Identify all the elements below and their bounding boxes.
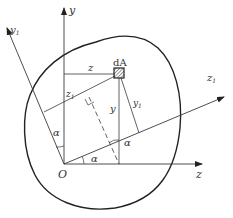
angle-label-3: α xyxy=(124,137,131,148)
origin-label: O xyxy=(58,168,67,181)
z1-coord-label: z1 xyxy=(65,89,75,100)
y-axis-label: y xyxy=(68,4,76,17)
angle-label-1: α xyxy=(53,127,60,138)
dA-label: dA xyxy=(113,57,127,68)
y1-coord-label: y1 xyxy=(132,98,142,109)
cross-section-diagram: y z y1 z1 O dA z y z1 y1 α α α xyxy=(0,0,233,218)
angle-arc-z xyxy=(82,156,84,164)
y1-axis xyxy=(7,28,64,164)
z-axis-label: z xyxy=(195,168,202,181)
area-element-dA xyxy=(114,68,124,78)
section-boundary xyxy=(25,36,181,209)
angle-label-2: α xyxy=(91,153,98,164)
z1-axis-label: z1 xyxy=(206,72,216,84)
z1-coordinate-line xyxy=(44,76,115,112)
z-coord-label: z xyxy=(87,62,94,73)
right-angle-marker xyxy=(85,99,94,105)
angle-arc-y xyxy=(56,146,64,147)
y-coord-label: y xyxy=(109,103,116,114)
y1-axis-label: y1 xyxy=(9,24,19,36)
z1-axis xyxy=(64,97,224,164)
